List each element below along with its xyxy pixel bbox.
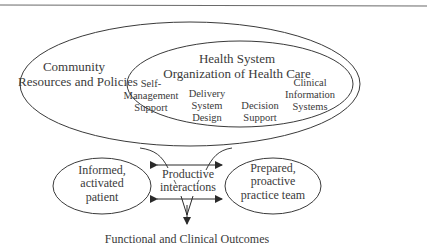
community-label: Community Resources and Policies	[18, 60, 130, 89]
outcomes-label: Functional and Clinical Outcomes	[90, 233, 284, 246]
patient-label: Informed, activated patient	[62, 164, 142, 204]
diagram-canvas	[0, 0, 427, 248]
productive-interactions-label: Productive interactions	[150, 168, 226, 195]
component-self-management-support: Self- Management Support	[120, 78, 182, 113]
component-delivery-system-design: Delivery System Design	[184, 88, 230, 123]
component-decision-support: Decision Support	[235, 100, 285, 124]
practice-team-label: Prepared, proactive practice team	[228, 162, 318, 202]
top-rule	[0, 5, 427, 6]
component-clinical-information-systems: Clinical Information Systems	[282, 77, 338, 112]
